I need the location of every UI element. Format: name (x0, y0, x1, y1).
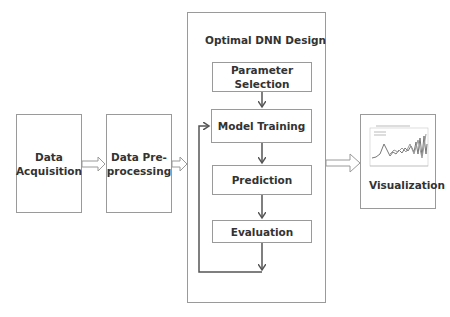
hollow-arrow-icon (172, 157, 187, 171)
hollow-arrow-icon (82, 157, 105, 171)
hollow-arrow-icon (326, 154, 360, 172)
connectors (0, 0, 450, 317)
feedback-loop-arrow-icon (199, 126, 262, 272)
